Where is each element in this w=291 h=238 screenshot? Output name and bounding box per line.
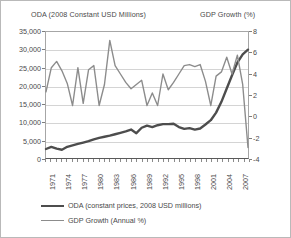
left-axis-tick-label: 35,000 — [0, 27, 41, 36]
x-axis-tick-mark — [206, 159, 207, 162]
x-axis-tick-label: 1998 — [193, 174, 202, 190]
x-axis-tick-mark — [99, 159, 100, 162]
x-axis-tick-mark — [185, 159, 186, 162]
x-axis-tick-mark — [158, 159, 159, 162]
x-axis-tick-mark — [217, 159, 218, 162]
left-axis-tick-label: 30,000 — [0, 45, 41, 54]
right-axis-tick-mark — [249, 138, 252, 139]
x-axis-tick-mark — [249, 159, 250, 162]
right-axis-tick-label: 4 — [253, 69, 275, 78]
x-axis-tick-mark — [72, 159, 73, 162]
left-axis-tick-label: 20,000 — [0, 81, 41, 90]
right-axis-tick-mark — [249, 95, 252, 96]
x-axis-tick-mark — [61, 159, 62, 162]
x-axis-tick-label: 1983 — [112, 174, 121, 190]
x-axis-tick-mark — [56, 159, 57, 162]
chart-figure: ODA (2008 Constant USD Millions) GDP Gro… — [0, 0, 291, 238]
x-axis-tick-mark — [147, 159, 148, 162]
x-axis-tick-label: 1992 — [161, 174, 170, 190]
x-axis-tick-mark — [238, 159, 239, 162]
x-axis-tick-mark — [244, 159, 245, 162]
gdp-line — [46, 40, 248, 147]
x-axis-tick-mark — [233, 159, 234, 162]
x-axis-tick-mark — [152, 159, 153, 162]
right-axis-tick-label: 0 — [253, 112, 275, 121]
x-axis-tick-mark — [228, 159, 229, 162]
chart-legend: ODA (constant prices, 2008 USD millions)… — [41, 198, 201, 228]
right-axis-tick-label: 8 — [253, 27, 275, 36]
x-axis-tick-marks — [45, 159, 249, 163]
x-axis-tick-mark — [195, 159, 196, 162]
x-axis-tick-mark — [93, 159, 94, 162]
right-axis-tick-label: 6 — [253, 48, 275, 57]
left-axis-title: ODA (2008 Constant USD Millions) — [31, 10, 146, 19]
x-axis-tick-label: 1989 — [145, 174, 154, 190]
x-axis-tick-mark — [83, 159, 84, 162]
x-axis-tick-mark — [120, 159, 121, 162]
x-axis-tick-mark — [163, 159, 164, 162]
right-axis-tick-label: -4 — [253, 155, 275, 164]
x-axis-tick-mark — [50, 159, 51, 162]
x-axis-tick-mark — [45, 159, 46, 162]
legend-label-oda: ODA (constant prices, 2008 USD millions) — [68, 201, 201, 210]
right-axis-title: GDP Growth (%) — [200, 10, 255, 19]
x-axis-tick-label: 2004 — [225, 174, 234, 190]
x-axis-tick-mark — [66, 159, 67, 162]
x-axis-tick-mark — [109, 159, 110, 162]
left-axis-tick-label: 10,000 — [0, 118, 41, 127]
legend-item-gdp: GDP Growth (Annual %) — [41, 213, 201, 228]
x-axis-tick-mark — [174, 159, 175, 162]
x-axis-tick-label: 1980 — [96, 174, 105, 190]
x-axis-tick-mark — [136, 159, 137, 162]
right-axis-tick-mark — [249, 116, 252, 117]
x-axis-tick-mark — [77, 159, 78, 162]
x-axis-tick-mark — [222, 159, 223, 162]
x-axis-tick-label: 2007 — [241, 174, 250, 190]
x-axis-tick-label: 1986 — [129, 174, 138, 190]
right-axis-tick-label: -2 — [253, 133, 275, 142]
x-axis-tick-mark — [179, 159, 180, 162]
x-axis-tick-mark — [131, 159, 132, 162]
x-axis-tick-label: 1971 — [48, 174, 57, 190]
x-axis-tick-mark — [142, 159, 143, 162]
legend-swatch-oda — [41, 205, 64, 207]
series-lines — [46, 32, 248, 158]
left-axis-tick-label: 15,000 — [0, 100, 41, 109]
left-axis-tick-label: 25,000 — [0, 63, 41, 72]
x-axis-tick-mark — [88, 159, 89, 162]
x-axis-tick-mark — [168, 159, 169, 162]
x-axis-tick-label: 1995 — [177, 174, 186, 190]
x-axis-tick-mark — [104, 159, 105, 162]
x-axis-tick-mark — [211, 159, 212, 162]
x-axis-tick-mark — [126, 159, 127, 162]
legend-label-gdp: GDP Growth (Annual %) — [68, 216, 146, 225]
left-axis-tick-label: 0 — [0, 155, 41, 164]
right-axis-tick-mark — [249, 74, 252, 75]
x-axis-tick-mark — [201, 159, 202, 162]
x-axis-tick-label: 1977 — [80, 174, 89, 190]
oda-line — [46, 50, 248, 150]
x-axis-tick-labels: 1971197419771980198319861989199219951998… — [45, 164, 249, 194]
plot-area — [45, 31, 249, 159]
right-axis-tick-mark — [249, 31, 252, 32]
right-axis-tick-mark — [249, 52, 252, 53]
x-axis-tick-label: 1974 — [64, 174, 73, 190]
x-axis-tick-mark — [115, 159, 116, 162]
x-axis-tick-mark — [190, 159, 191, 162]
legend-item-oda: ODA (constant prices, 2008 USD millions) — [41, 198, 201, 213]
legend-swatch-gdp — [41, 220, 64, 221]
left-axis-tick-label: 5,000 — [0, 136, 41, 145]
x-axis-tick-label: 2001 — [209, 174, 218, 190]
right-axis-tick-label: 2 — [253, 91, 275, 100]
